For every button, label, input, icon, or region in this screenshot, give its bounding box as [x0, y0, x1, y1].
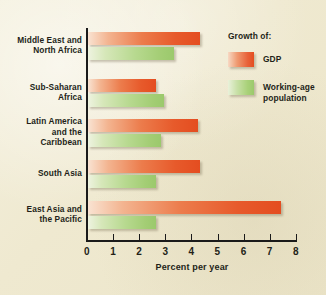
chart-panel: 012345678 Middle East andNorth AfricaSub… [0, 0, 326, 295]
category-label: Latin Americaand theCaribbean [0, 116, 82, 148]
x-axis-tick [244, 234, 245, 241]
bar-gdp [88, 160, 200, 173]
category-label-line: East Asia and [0, 204, 82, 215]
x-axis-tick [191, 234, 192, 241]
x-axis-tick-label: 2 [129, 246, 149, 257]
x-axis-tick-label: 8 [286, 246, 306, 257]
x-axis-tick-label: 4 [181, 246, 201, 257]
category-label-line: Africa [0, 92, 82, 103]
x-axis-tick-label: 0 [77, 246, 97, 257]
legend-item-working-age-population[interactable]: Working-age population [228, 80, 322, 103]
legend-title: Growth of: [228, 31, 322, 41]
category-label-line: Latin America [0, 116, 82, 127]
legend-label-working-age-population: Working-age population [263, 80, 322, 103]
category-label: Middle East andNorth Africa [0, 35, 82, 56]
bar-gdp [88, 119, 198, 132]
bar-working-age-population [88, 175, 156, 188]
x-axis-tick-label: 5 [208, 246, 228, 257]
legend: Growth of: GDP Working-age population [228, 31, 322, 116]
category-label-line: Middle East and [0, 35, 82, 46]
x-axis-tick [139, 234, 140, 241]
legend-swatch-population [228, 80, 254, 95]
legend-label-gdp: GDP [263, 52, 281, 65]
x-axis-tick [270, 234, 271, 241]
bar-working-age-population [88, 216, 156, 229]
x-axis-tick [218, 234, 219, 241]
x-axis-tick-label: 1 [103, 246, 123, 257]
category-label-line: North Africa [0, 45, 82, 56]
x-axis-tick-label: 3 [155, 246, 175, 257]
bar-gdp [88, 201, 281, 214]
x-axis-tick [87, 234, 88, 241]
category-label: East Asia andthe Pacific [0, 204, 82, 225]
x-axis-tick [296, 234, 297, 241]
bar-working-age-population [88, 134, 161, 147]
x-axis-tick-label: 6 [234, 246, 254, 257]
x-axis-tick-label: 7 [260, 246, 280, 257]
bar-working-age-population [88, 94, 164, 107]
x-axis-tick [165, 234, 166, 241]
x-axis-tick [113, 234, 114, 241]
bar-gdp [88, 79, 156, 92]
x-axis-title: Percent per year [86, 262, 298, 272]
category-label-line: and the [0, 127, 82, 138]
category-label-line: South Asia [0, 168, 82, 179]
category-label-line: Caribbean [0, 137, 82, 148]
legend-swatch-gdp [228, 52, 254, 67]
legend-item-gdp[interactable]: GDP [228, 52, 322, 67]
category-label: South Asia [0, 168, 82, 179]
bar-gdp [88, 32, 200, 45]
category-label-line: Sub-Saharan [0, 82, 82, 93]
category-label: Sub-SaharanAfrica [0, 82, 82, 103]
category-label-line: the Pacific [0, 214, 82, 225]
bar-working-age-population [88, 47, 174, 60]
